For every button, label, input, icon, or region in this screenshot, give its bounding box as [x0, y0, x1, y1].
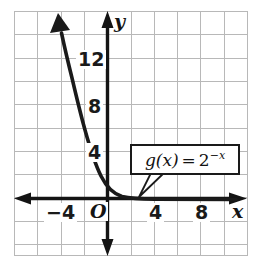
y-tick-label-4: 4 [86, 143, 103, 162]
origin-label: O [89, 202, 108, 221]
y-tick-label-12: 12 [76, 50, 106, 69]
graph-figure: 12 8 4 −4 4 8 O y x g(x)=2−x [0, 0, 259, 271]
equation-callout-text: g(x)=2−x [145, 150, 225, 170]
x-tick-label-minus-4: −4 [44, 203, 77, 222]
y-tick-label-8: 8 [86, 97, 103, 116]
equation-equals-sign: = [179, 150, 199, 170]
x-tick-label-8: 8 [193, 203, 210, 222]
equation-exponent: −x [210, 149, 225, 162]
equation-function-name: g(x) [145, 150, 179, 170]
coordinate-plane [0, 0, 259, 271]
equation-exponent-sign: − [210, 149, 219, 162]
equation-callout: g(x)=2−x [130, 144, 240, 175]
equation-base: 2 [199, 150, 210, 170]
y-axis-label: y [114, 12, 125, 31]
x-tick-label-4: 4 [147, 203, 164, 222]
equation-exponent-variable: x [219, 149, 225, 162]
plot-background [0, 0, 259, 271]
x-axis-label: x [232, 202, 243, 221]
